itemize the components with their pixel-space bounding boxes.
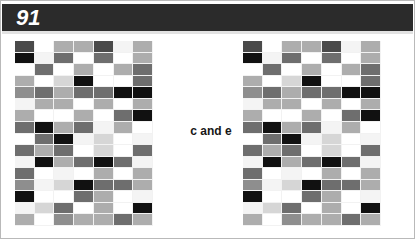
matrix-cell bbox=[342, 203, 362, 215]
matrix-cell bbox=[282, 64, 302, 76]
matrix-cell bbox=[263, 41, 283, 53]
matrix-cell bbox=[54, 76, 74, 88]
matrix-cell bbox=[54, 214, 74, 226]
matrix-cell bbox=[114, 53, 134, 65]
matrix-cell bbox=[302, 53, 322, 65]
matrix-cell bbox=[263, 134, 283, 146]
matrix-cell bbox=[35, 214, 55, 226]
matrix-cell bbox=[322, 203, 342, 215]
matrix-cell bbox=[322, 191, 342, 203]
matrix-cell bbox=[263, 76, 283, 88]
matrix-cell bbox=[302, 87, 322, 99]
matrix-cell bbox=[342, 168, 362, 180]
matrix-cell bbox=[263, 191, 283, 203]
matrix-cell bbox=[322, 157, 342, 169]
matrix-cell bbox=[263, 203, 283, 215]
matrix-cell bbox=[322, 41, 342, 53]
matrix-cell bbox=[114, 87, 134, 99]
matrix-cell bbox=[342, 157, 362, 169]
matrix-cell bbox=[35, 203, 55, 215]
matrix-cell bbox=[114, 122, 134, 134]
matrix-cell bbox=[114, 41, 134, 53]
matrix-cell bbox=[114, 157, 134, 169]
matrix-cell bbox=[133, 214, 153, 226]
matrix-cell bbox=[54, 41, 74, 53]
matrix-cell bbox=[133, 41, 153, 53]
matrix-cell bbox=[133, 64, 153, 76]
matrix-cell bbox=[94, 87, 114, 99]
matrix-cell bbox=[361, 53, 381, 65]
matrix-cell bbox=[35, 134, 55, 146]
matrix-cell bbox=[15, 122, 35, 134]
matrix-cell bbox=[35, 191, 55, 203]
matrix-cell bbox=[361, 168, 381, 180]
matrix-cell bbox=[263, 99, 283, 111]
matrix-cell bbox=[15, 203, 35, 215]
matrix-cell bbox=[342, 87, 362, 99]
matrix-cell bbox=[361, 99, 381, 111]
matrix-cell bbox=[94, 168, 114, 180]
matrix-cell bbox=[342, 214, 362, 226]
matrix-cell bbox=[35, 99, 55, 111]
matrix-cell bbox=[74, 110, 94, 122]
matrix-cell bbox=[74, 76, 94, 88]
matrix-cell bbox=[243, 157, 263, 169]
matrix-cell bbox=[322, 64, 342, 76]
matrix-cell bbox=[15, 76, 35, 88]
matrix-cell bbox=[114, 76, 134, 88]
matrix-cell bbox=[342, 64, 362, 76]
matrix-cell bbox=[94, 110, 114, 122]
matrix-cell bbox=[114, 99, 134, 111]
matrix-cell bbox=[94, 53, 114, 65]
matrix-cell bbox=[15, 99, 35, 111]
matrix-cell bbox=[361, 64, 381, 76]
matrix-cell bbox=[243, 110, 263, 122]
matrix-cell bbox=[133, 203, 153, 215]
matrix-cell bbox=[133, 180, 153, 192]
figure-header-bar: 91 bbox=[2, 4, 413, 31]
matrix-cell bbox=[35, 122, 55, 134]
matrix-cell bbox=[322, 168, 342, 180]
matrix-cell bbox=[342, 76, 362, 88]
matrix-cell bbox=[114, 64, 134, 76]
matrix-cell bbox=[94, 145, 114, 157]
matrix-cell bbox=[15, 191, 35, 203]
matrix-cell bbox=[361, 203, 381, 215]
matrix-cell bbox=[263, 168, 283, 180]
matrix-cell bbox=[114, 214, 134, 226]
matrix-cell bbox=[114, 180, 134, 192]
matrix-cell bbox=[361, 157, 381, 169]
matrix-cell bbox=[302, 76, 322, 88]
matrix-cell bbox=[74, 157, 94, 169]
matrix-cell bbox=[361, 145, 381, 157]
matrix-cell bbox=[302, 214, 322, 226]
matrix-cell bbox=[133, 134, 153, 146]
matrix-cell bbox=[361, 41, 381, 53]
matrix-cell bbox=[263, 64, 283, 76]
matrix-cell bbox=[302, 203, 322, 215]
matrix-cell bbox=[243, 214, 263, 226]
matrix-cell bbox=[282, 99, 302, 111]
matrix-cell bbox=[263, 157, 283, 169]
matrix-cell bbox=[302, 191, 322, 203]
matrix-cell bbox=[35, 53, 55, 65]
matrix-cell bbox=[133, 76, 153, 88]
matrix-cell bbox=[54, 134, 74, 146]
figure-page: 91 c and e bbox=[0, 0, 415, 239]
matrix-cell bbox=[74, 191, 94, 203]
matrix-cell bbox=[15, 214, 35, 226]
matrix-cell bbox=[35, 110, 55, 122]
matrix-cell bbox=[54, 180, 74, 192]
matrix-cell bbox=[94, 203, 114, 215]
matrix-cell bbox=[54, 53, 74, 65]
matrix-cell bbox=[54, 145, 74, 157]
matrix-cell bbox=[54, 168, 74, 180]
matrix-cell bbox=[361, 134, 381, 146]
matrix-cell bbox=[282, 157, 302, 169]
matrix-cell bbox=[302, 122, 322, 134]
matrix-cell bbox=[243, 203, 263, 215]
matrix-cell bbox=[74, 99, 94, 111]
matrix-cell bbox=[94, 214, 114, 226]
matrix-cell bbox=[282, 134, 302, 146]
matrix-cell bbox=[322, 110, 342, 122]
